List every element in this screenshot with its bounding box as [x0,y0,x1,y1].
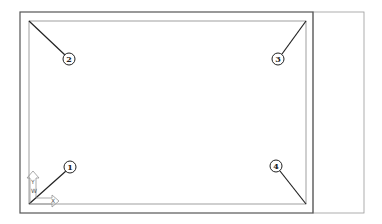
callout-3-label: 3 [275,54,281,64]
callout-4: 4 [270,160,306,204]
callout-2: 2 [29,21,75,65]
side-panel [313,12,364,213]
callout-2-label: 2 [66,54,72,64]
drawing-sheet: 2 3 1 4 Y W X [0,0,382,224]
callout-4-label: 4 [273,161,279,171]
ucs-w-label: W [31,187,37,194]
ucs-y-label: Y [30,178,35,185]
outer-frame [20,12,313,213]
ucs-x-label: X [51,197,55,204]
callout-1-label: 1 [67,162,73,172]
inner-frame [29,21,306,204]
callout-3: 3 [272,21,306,65]
